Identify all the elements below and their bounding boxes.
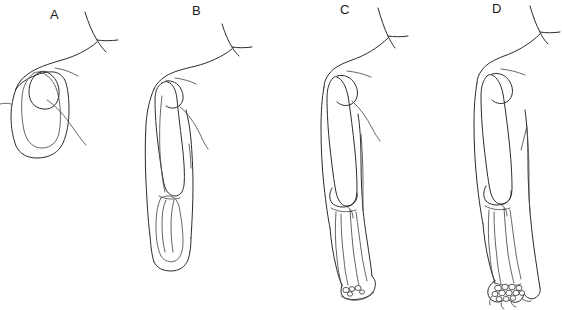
panel-b-neck-line [232,47,252,48]
panel-c-neck-line [388,36,408,37]
panel-b-limb-outline-right [186,110,193,238]
panel-b-body-contour [222,24,239,56]
panel-c-forearm-outline-left [330,228,342,285]
panel-d-humerus-condyle [484,186,511,205]
panel-a-lateral-body-line [0,103,11,104]
panel-d-shoulder-contour [477,34,540,83]
panel-d-arm-outline-left [474,83,483,224]
panel-c-radius-inner-line [341,214,348,285]
panel-c-forearm-outline-right [363,210,372,276]
panel-d-soft-tissue-fold [501,69,525,75]
panel-d-humeral-head [492,73,512,103]
panel-c-elbow-joint [331,208,356,212]
panel-label-a: A [50,8,59,21]
panel-d-carpal-bone [502,284,508,290]
panel-b-radius [162,200,166,252]
panel-d-body-contour [530,6,548,44]
figure-canvas: A B C D [0,0,562,310]
panel-b-humerus-inner-line [160,96,165,192]
panel-a-blastema-outline [22,72,61,148]
panel-c-soft-tissue-fold [347,71,371,77]
panel-d-neck-line [540,32,560,33]
panel-d-digit-ray [522,299,531,301]
panel-b-ulna [171,200,174,252]
panel-c-carpal-bone [349,287,355,292]
panel-a-neck-line [97,40,118,41]
panel-d-humerus [481,75,512,205]
panel-b-humeral-head [166,81,183,108]
panel-d-carpal-bone [516,285,522,290]
panel-d-drawing [474,6,560,309]
panel-d-forearm-outline-left [483,224,495,281]
panel-b-forearm-outline [156,196,183,262]
limb-development-illustration [0,0,562,310]
panel-d-elbow-joint [485,206,510,210]
panel-b-trunk-edge [189,144,191,168]
panel-c-carpal-bone [347,292,352,296]
panel-d-radius-inner-line [494,212,501,284]
panel-a-humerus-condensation [29,71,59,109]
panel-d-ulna [504,208,514,283]
panel-d-digit-ray [501,303,504,309]
panel-a-body-contour [85,12,106,52]
panel-b-hand-plate-outline [154,238,191,271]
panel-d-carpal-bone [509,284,516,290]
panel-d-carpal-bone [499,290,506,296]
panel-c-carpal-bone [360,290,365,294]
panel-d-carpal-bone [510,296,516,301]
panel-a-soft-tissue-fold [55,68,78,76]
panel-c-arm-outline-left [321,87,330,228]
panel-label-b: B [192,4,201,17]
panel-d-carpal-bone [519,291,524,296]
panel-c-humerus-condyle [330,188,357,207]
panel-c-carpal-bone [355,286,361,291]
panel-c-shoulder-contour [324,38,388,87]
panel-d-ulna-inner-line [510,210,521,279]
panel-d-forearm-outline-right [530,212,540,288]
panel-d-carpal-bone [496,297,502,302]
panel-b-limb-outline-left [145,89,154,262]
panel-d-carpal-bone [503,297,509,302]
panel-label-c: C [340,3,349,16]
panel-a-drawing [0,12,118,158]
panel-b-soft-tissue-fold [175,78,196,84]
panel-c-flank-line [352,101,380,141]
panel-d-carpal-bone [506,290,512,296]
panel-b-flank-line [180,107,208,149]
panel-label-d: D [492,2,501,15]
panel-b-drawing [145,24,252,271]
panel-c-humerus [327,77,357,207]
panel-c-body-contour [378,8,395,48]
panel-d-carpal-bone [513,290,519,295]
panel-c-drawing [321,8,408,300]
panel-c-humeral-head [337,75,357,105]
panel-d-carpal-bone [492,291,498,296]
panel-d-upper-flank-line [521,126,527,150]
panel-c-ulna-inner-line [356,212,367,281]
